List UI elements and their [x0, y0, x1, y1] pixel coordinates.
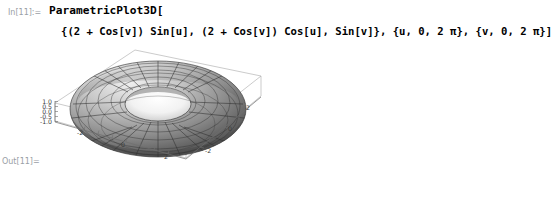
- z-axis: 1.0 0.5 0.0 -0.5 -1.0: [40, 98, 58, 125]
- x-tick-label-0: -2: [77, 129, 83, 136]
- output-cell[interactable]: Out[11]=: [0, 46, 513, 202]
- x-tick-label-1: 0: [121, 141, 125, 148]
- z-tick-label-4: -1.0: [40, 118, 52, 125]
- y-tick-label-2: -2: [205, 147, 211, 154]
- parametric-plot-3d-graphic[interactable]: 1.0 0.5 0.0 -0.5 -1.0 -2: [38, 46, 293, 202]
- torus-plot-svg: 1.0 0.5 0.0 -0.5 -1.0 -2: [38, 46, 293, 202]
- y-tick-label-0: 2: [246, 104, 250, 111]
- output-cell-label: Out[11]=: [2, 157, 40, 166]
- input-code-line-2[interactable]: {(2 + Cos[v]) Sin[u], (2 + Cos[v]) Cos[u…: [61, 25, 552, 37]
- x-tick-label-2: 2: [164, 153, 168, 160]
- y-tick-label-1: 0: [228, 125, 232, 132]
- input-code-line-1[interactable]: ParametricPlot3D[: [49, 4, 164, 17]
- input-cell[interactable]: In[11]:= ParametricPlot3D[ {(2 + Cos[v])…: [0, 0, 513, 48]
- input-cell-label: In[11]:=: [8, 8, 41, 17]
